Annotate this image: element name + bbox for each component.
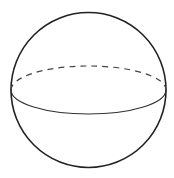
equator-front-solid [11,90,166,114]
equator-back-dashed [11,66,166,90]
sphere-outline [11,13,166,168]
sphere-diagram [0,0,174,178]
